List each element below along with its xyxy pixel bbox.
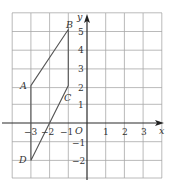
x-tick-label: 3 (141, 127, 147, 137)
y-tick-label: 3 (78, 64, 84, 74)
y-tick-label: 2 (78, 83, 84, 93)
origin-label: O (75, 125, 83, 136)
x-axis-label: x (159, 125, 165, 136)
point-label-c: C (64, 92, 72, 103)
coordinate-plane: x y O −3 −2 −1 1 2 3 5 4 3 2 1 −1 −2 A B… (0, 0, 171, 192)
y-tick-label: −1 (72, 138, 85, 148)
point-label-b: B (65, 19, 73, 30)
point-label-a: A (19, 80, 27, 91)
y-axis-label: y (76, 11, 83, 22)
x-tick-label: −3 (24, 127, 38, 137)
x-tick-label: −2 (41, 127, 54, 137)
y-tick-label: 5 (78, 27, 84, 37)
x-tick-label: 2 (122, 127, 128, 137)
point-label-d: D (18, 154, 27, 165)
x-tick-label: 1 (103, 127, 109, 137)
x-tick-label: −1 (60, 127, 73, 137)
y-tick-label: −2 (72, 156, 85, 166)
y-tick-label: 4 (78, 45, 84, 55)
y-tick-label: 1 (78, 100, 84, 110)
